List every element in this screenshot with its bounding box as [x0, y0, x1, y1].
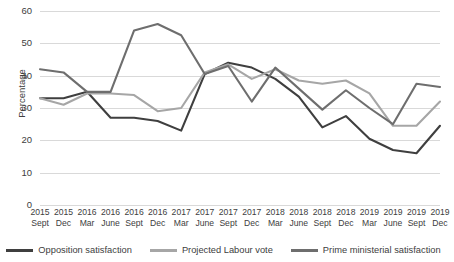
- plot-area: [40, 11, 440, 205]
- legend-label: Prime ministerial satisfaction: [323, 245, 441, 256]
- x-tick-label: 2019Dec: [425, 207, 454, 229]
- legend-label: Projected Labour vote: [182, 245, 273, 256]
- y-tick-label: 30: [21, 103, 32, 113]
- x-axis-tick-labels: 2015Sept2015Dec2016Mar2016June2016Sept20…: [40, 207, 440, 235]
- legend-item-2[interactable]: Prime ministerial satisfaction: [291, 245, 441, 256]
- y-tick-label: 40: [21, 71, 32, 81]
- x-tick-month: Dec: [425, 218, 454, 229]
- legend-item-1[interactable]: Projected Labour vote: [150, 245, 273, 256]
- y-tick-label: 60: [21, 6, 32, 16]
- legend-swatch-icon: [6, 249, 33, 252]
- y-tick-label: 10: [21, 168, 32, 178]
- legend-swatch-icon: [291, 249, 318, 252]
- series-line-1: [40, 64, 440, 125]
- y-axis-tick-labels: 6050403020100: [0, 11, 36, 205]
- legend-swatch-icon: [150, 249, 177, 252]
- legend-item-0[interactable]: Opposition satisfaction: [6, 245, 132, 256]
- gridline-0: [40, 205, 440, 206]
- legend-label: Opposition satisfaction: [38, 245, 132, 256]
- x-tick-year: 2019: [425, 207, 454, 218]
- y-tick-label: 50: [21, 38, 32, 48]
- series-lines: [40, 11, 440, 205]
- y-tick-label: 20: [21, 135, 32, 145]
- chart-legend: Opposition satisfactionProjected Labour …: [0, 240, 447, 260]
